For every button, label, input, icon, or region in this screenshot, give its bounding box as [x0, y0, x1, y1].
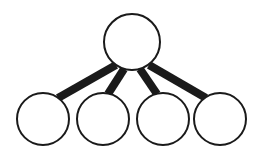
node-child1[interactable]: [17, 93, 69, 145]
node-child4[interactable]: [194, 93, 246, 145]
node-child3[interactable]: [137, 93, 189, 145]
tree-diagram: [0, 0, 259, 156]
node-root[interactable]: [104, 14, 160, 70]
node-child2[interactable]: [77, 93, 129, 145]
tree-diagram-canvas: [0, 0, 259, 156]
